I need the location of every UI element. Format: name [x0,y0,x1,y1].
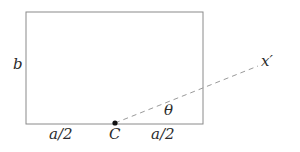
figure-container: b a/2 C a/2 θ x′ [0,0,300,152]
half-width-label-right: a/2 [151,127,175,142]
angle-label-theta: θ [164,103,173,118]
x-prime-axis-dashed-line [115,66,258,123]
half-width-label-left: a/2 [49,127,73,142]
axis-label-x-prime: x′ [261,54,273,69]
rectangle-outline [26,12,203,124]
height-label-b: b [13,57,23,72]
figure-canvas [0,0,300,152]
centroid-label-c: C [109,127,120,142]
